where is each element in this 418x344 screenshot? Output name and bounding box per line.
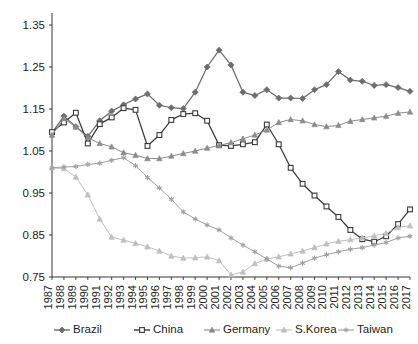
data-point-marker	[157, 133, 162, 138]
x-axis-tick-label: 1996	[149, 285, 161, 309]
data-point-marker	[288, 165, 293, 170]
x-axis-tick-label: 1990	[78, 285, 90, 309]
data-point-marker	[73, 110, 78, 115]
legend-label: China	[153, 323, 184, 335]
y-axis-tick-label: 1.35	[23, 19, 45, 31]
x-axis-tick-label: 2007	[281, 285, 293, 309]
data-point-marker	[312, 193, 317, 198]
x-axis-tick-label: 1994	[126, 285, 138, 309]
x-axis-tick-label: 2003	[233, 285, 245, 309]
x-axis-tick-label: 1998	[173, 285, 185, 309]
data-point-marker	[408, 207, 413, 212]
data-point-marker	[97, 122, 102, 127]
data-point-marker	[169, 118, 174, 123]
x-axis-tick-label: 2006	[269, 285, 281, 309]
data-point-marker	[140, 328, 145, 333]
x-axis-tick-label: 1995	[137, 285, 149, 309]
x-axis-tick-label: 2009	[305, 285, 317, 309]
y-axis-tick-label: 1.05	[23, 145, 45, 157]
x-axis-tick-label: 2012	[340, 285, 352, 309]
y-axis-tick-label: 1.15	[23, 103, 45, 115]
data-point-marker	[121, 106, 126, 111]
x-axis-tick-label: 1987	[42, 285, 54, 309]
y-axis-tick-label: 0.85	[23, 229, 45, 241]
x-axis-tick-label: 2014	[364, 285, 376, 309]
legend-label: Brazil	[73, 323, 102, 335]
x-axis-tick-label: 1997	[161, 285, 173, 309]
x-axis-tick-label: 1989	[66, 285, 78, 309]
x-axis-tick-label: 2005	[257, 285, 269, 309]
chart-canvas: 0.750.850.951.051.151.251.35 19871988198…	[0, 0, 418, 344]
x-axis-tick-label: 2015	[376, 285, 388, 309]
data-point-marker	[336, 215, 341, 220]
x-axis-tick-label: 2017	[400, 285, 412, 309]
x-axis-tick-label: 2010	[316, 285, 328, 309]
data-point-marker	[324, 204, 329, 209]
x-axis-tick-label: 2000	[197, 285, 209, 309]
x-axis-tick-label: 2004	[245, 285, 257, 309]
data-point-marker	[241, 142, 246, 147]
data-point-marker	[181, 112, 186, 117]
legend-label: S.Korea	[295, 323, 337, 335]
x-axis-tick-label: 2008	[293, 285, 305, 309]
y-axis-tick-label: 1.25	[23, 61, 45, 73]
data-point-marker	[193, 111, 198, 116]
data-point-marker	[205, 118, 210, 123]
data-point-marker	[145, 144, 150, 149]
x-axis-tick-label: 2013	[352, 285, 364, 309]
line-chart: 0.750.850.951.051.151.251.35 19871988198…	[0, 0, 418, 344]
y-axis-tick-label: 0.75	[23, 271, 45, 283]
legend-label: Germany	[223, 323, 271, 335]
x-axis-tick-label: 2011	[328, 285, 340, 309]
data-point-marker	[109, 115, 114, 120]
x-axis-tick-label: 2001	[209, 285, 221, 309]
data-point-marker	[276, 142, 281, 147]
x-axis-tick-label: 1999	[185, 285, 197, 309]
x-axis-tick-label: 1988	[54, 285, 66, 309]
data-point-marker	[300, 181, 305, 186]
data-point-marker	[348, 228, 353, 233]
x-axis-tick-label: 1991	[90, 285, 102, 309]
data-point-marker	[252, 140, 257, 145]
data-point-marker	[264, 122, 269, 127]
x-axis-tick-label: 2002	[221, 285, 233, 309]
x-axis-tick-label: 1993	[114, 285, 126, 309]
data-point-marker	[133, 107, 138, 112]
x-axis-tick-label: 1992	[102, 285, 114, 309]
legend-label: Taiwan	[357, 323, 393, 335]
y-axis-tick-label: 0.95	[23, 187, 45, 199]
x-axis-tick-label: 2016	[388, 285, 400, 309]
data-point-marker	[85, 141, 90, 146]
